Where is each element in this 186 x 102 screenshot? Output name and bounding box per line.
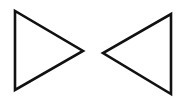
triangles-diagram bbox=[0, 0, 186, 102]
right-pointing-triangle bbox=[15, 11, 83, 90]
left-pointing-triangle bbox=[103, 14, 171, 94]
